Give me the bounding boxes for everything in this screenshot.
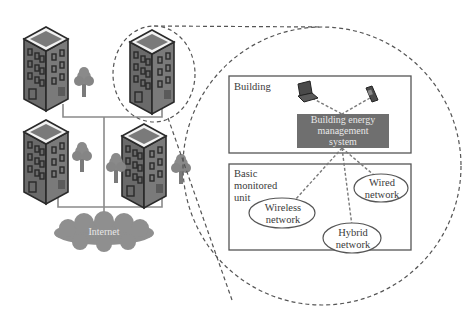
tree-icon bbox=[72, 142, 92, 172]
tree-icon bbox=[74, 67, 94, 97]
tree-icon bbox=[171, 154, 191, 184]
building-top-right bbox=[130, 30, 174, 114]
wireless-network-label: Wireless network bbox=[254, 202, 312, 226]
bems-label: Building energy management system bbox=[297, 114, 389, 147]
building-bottom-left bbox=[24, 120, 68, 204]
hybrid-network-label: Hybrid network bbox=[325, 227, 381, 251]
unit-panel-title: Basic monitored unit bbox=[234, 168, 277, 204]
building-bottom-right bbox=[122, 124, 166, 208]
building-top-left bbox=[24, 27, 68, 111]
wired-network-label: Wired network bbox=[356, 177, 408, 201]
internet-label: Internet bbox=[79, 226, 129, 238]
building-panel-title: Building bbox=[234, 81, 271, 93]
diagram-canvas bbox=[0, 0, 462, 319]
